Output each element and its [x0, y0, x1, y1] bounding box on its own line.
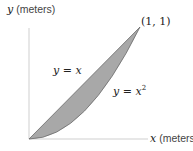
lower-curve-eq: =	[123, 85, 132, 98]
upper-curve-lhs: y	[53, 64, 59, 77]
lower-curve-lhs: y	[113, 85, 119, 98]
shaded-region	[29, 27, 140, 139]
upper-curve-rhs: x	[75, 64, 81, 77]
x-axis-label: x (meters)	[150, 132, 193, 145]
corner-point-label: (1, 1)	[141, 15, 171, 28]
y-axis-label: y (meters)	[7, 3, 55, 16]
x-axis-unit: (meters)	[159, 132, 193, 144]
y-axis-unit: (meters)	[16, 3, 55, 15]
upper-curve-eq: =	[63, 64, 72, 77]
y-axis-var: y	[7, 3, 13, 16]
upper-curve-label: y = x	[53, 64, 82, 77]
lower-curve-label: y = x2	[113, 84, 146, 98]
x-axis-var: x	[150, 132, 156, 145]
lower-curve-exponent: 2	[142, 84, 146, 92]
region-diagram: y (meters) (1, 1) y = x y = x2 x (meters…	[0, 0, 193, 151]
